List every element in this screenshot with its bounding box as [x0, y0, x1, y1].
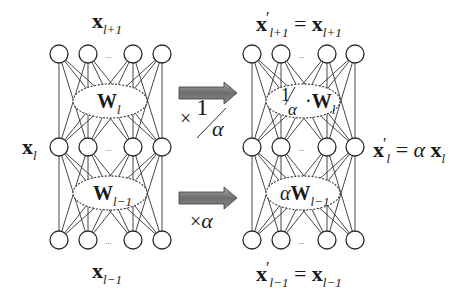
- node: [50, 138, 68, 156]
- ellipsis-left-bottom: ···: [105, 238, 111, 248]
- prime: ′: [383, 135, 387, 152]
- node: [346, 231, 364, 249]
- upper-transform-arrow: [179, 82, 237, 104]
- subscript: l+1: [323, 25, 342, 40]
- left-weight-lower-label: Wl−1: [93, 182, 132, 210]
- node: [79, 45, 97, 63]
- subscript: l: [332, 102, 336, 117]
- equals-sign: =: [396, 137, 408, 162]
- left-top-layer-label: xl+1: [92, 10, 122, 36]
- var-x: x: [22, 134, 33, 159]
- right-top-layer-label: x′l+1 = xl+1: [256, 10, 342, 39]
- subscript: l: [387, 151, 391, 166]
- right-weight-upper-label: ·Wl: [305, 90, 335, 118]
- node: [272, 231, 290, 249]
- ellipsis-right-bottom: ···: [298, 238, 304, 248]
- node: [346, 138, 364, 156]
- ellipsis-right-top: ···: [298, 52, 304, 62]
- times-sign: ×: [180, 107, 191, 129]
- node: [153, 231, 171, 249]
- upper-arrow-label: × 1: [180, 105, 208, 129]
- fraction-numerator: 1: [196, 94, 208, 120]
- var-W: W: [97, 90, 117, 112]
- node: [124, 231, 142, 249]
- dot-operator: ·: [305, 90, 312, 112]
- var-x: x: [92, 258, 103, 283]
- node: [243, 138, 261, 156]
- node: [50, 45, 68, 63]
- subscript: l−1: [270, 275, 289, 290]
- left-bottom-layer-label: xl−1: [92, 260, 122, 286]
- node: [318, 45, 336, 63]
- var-x: x: [312, 261, 323, 286]
- node: [124, 138, 142, 156]
- node: [272, 45, 290, 63]
- node: [50, 231, 68, 249]
- right-bottom-layer-label: x′l−1 = xl−1: [256, 260, 342, 289]
- ellipsis-left-top: ···: [105, 52, 111, 62]
- subscript: l: [442, 151, 446, 166]
- subscript: l−1: [113, 194, 132, 209]
- node: [124, 45, 142, 63]
- subscript: l−1: [311, 194, 330, 209]
- node: [153, 45, 171, 63]
- lower-transform-arrow: [179, 187, 237, 209]
- node: [153, 138, 171, 156]
- right-mid-layer-label: x′l = α xl: [373, 136, 445, 165]
- alpha-coefficient: α: [414, 137, 426, 162]
- var-x: x: [431, 137, 442, 162]
- subscript: l+1: [270, 25, 289, 40]
- prime: ′: [266, 9, 270, 26]
- subscript: l−1: [323, 275, 342, 290]
- node: [318, 231, 336, 249]
- equals-sign: =: [294, 261, 306, 286]
- node: [79, 138, 97, 156]
- right-weight-lower-label: αWl−1: [280, 182, 329, 210]
- node: [243, 231, 261, 249]
- node: [79, 231, 97, 249]
- subscript: l+1: [103, 22, 122, 37]
- right-weight-upper-frac-den: α: [288, 100, 297, 120]
- times-sign: ×: [190, 210, 201, 232]
- equals-sign: =: [294, 11, 306, 36]
- var-W: W: [93, 182, 113, 204]
- node: [346, 45, 364, 63]
- node: [243, 45, 261, 63]
- subscript: l−1: [103, 272, 122, 287]
- subscript: l: [33, 148, 37, 163]
- var-x: x: [312, 11, 323, 36]
- upper-arrow-denominator: α: [212, 118, 224, 140]
- var-x: x: [92, 8, 103, 33]
- subscript: l: [117, 102, 121, 117]
- ellipsis-right-mid: ···: [298, 145, 304, 155]
- var-W: W: [291, 182, 311, 204]
- node: [318, 138, 336, 156]
- var-W: W: [312, 90, 332, 112]
- alpha-coefficient: α: [280, 182, 291, 204]
- left-mid-layer-label: xl: [22, 136, 37, 162]
- lower-arrow-label: ×α: [190, 210, 213, 232]
- node: [272, 138, 290, 156]
- ellipsis-left-mid: ···: [105, 145, 111, 155]
- left-weight-upper-label: Wl: [97, 90, 121, 118]
- alpha-factor: α: [201, 208, 213, 233]
- prime: ′: [266, 259, 270, 276]
